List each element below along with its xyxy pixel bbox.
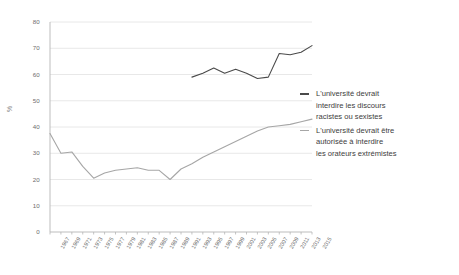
legend-entry-1: L'université devrait interdire les disco…: [316, 88, 459, 123]
legend-label-line-3: les orateurs extrémistes: [316, 148, 459, 160]
chart-legend: L'université devrait interdire les disco…: [316, 88, 459, 162]
data-series: [50, 46, 312, 180]
chart-container: % 01020304050607080 19671969197119731975…: [0, 0, 459, 275]
legend-entry-2: L'université devrait être autorisée à in…: [316, 125, 459, 160]
legend-label-line-1: L'université devrait être: [316, 125, 459, 137]
legend-label-line-2: autorisée à interdire: [316, 136, 459, 148]
legend-label-line-1: L'université devrait: [316, 88, 459, 100]
series-line-1: [192, 46, 312, 79]
legend-label-line-3: racistes ou sexistes: [316, 111, 459, 123]
legend-swatch-icon-1: [300, 93, 309, 95]
legend-swatch-icon-2: [300, 130, 309, 132]
legend-label-line-2: interdire les discours: [316, 100, 459, 112]
series-line-2: [50, 119, 312, 179]
gridlines: [50, 22, 312, 206]
